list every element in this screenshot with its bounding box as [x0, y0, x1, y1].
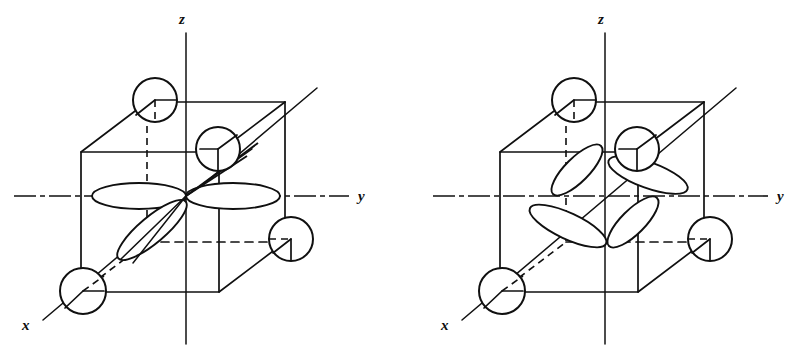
orbital-figure: z y x	[0, 0, 802, 354]
axis-label-x-right: x	[440, 317, 449, 333]
axis-label-y-left: y	[356, 188, 365, 204]
cube-right	[500, 102, 704, 292]
panel-left: z y x	[14, 11, 365, 344]
axis-label-z-right: z	[597, 11, 604, 27]
axis-label-y-right: y	[775, 188, 784, 204]
lobe-upper-left	[544, 137, 609, 202]
figure-canvas: z y x	[0, 0, 802, 354]
panel-right: z y x	[433, 11, 784, 344]
lobe-lower-right	[600, 189, 665, 254]
axis-label-x-left: x	[21, 317, 30, 333]
axis-label-z-left: z	[178, 11, 185, 27]
